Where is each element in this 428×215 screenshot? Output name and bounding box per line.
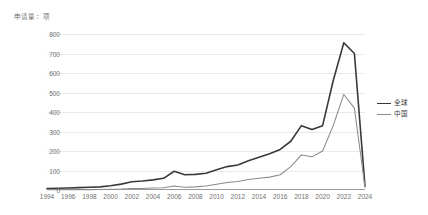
y-tick-label: 300 bbox=[20, 128, 60, 135]
y-tick-label: 700 bbox=[20, 50, 60, 57]
y-tick-label: 600 bbox=[20, 70, 60, 77]
x-tick-label: 2008 bbox=[188, 193, 202, 200]
y-tick-label: 800 bbox=[20, 31, 60, 38]
legend: 全球中国 bbox=[377, 98, 408, 120]
x-tick-label: 2010 bbox=[209, 193, 223, 200]
legend-label: 中国 bbox=[394, 111, 408, 118]
x-tick-label: 2018 bbox=[294, 193, 308, 200]
x-tick-label: 2014 bbox=[252, 193, 266, 200]
legend-swatch-icon bbox=[377, 103, 391, 104]
x-tick-label: 2024 bbox=[358, 193, 372, 200]
legend-label: 全球 bbox=[394, 100, 408, 107]
x-tick-label: 2004 bbox=[146, 193, 160, 200]
y-tick-label: 400 bbox=[20, 109, 60, 116]
x-tick-label: 1996 bbox=[61, 193, 75, 200]
x-tick-label: 1998 bbox=[82, 193, 96, 200]
x-tick-label: 2006 bbox=[167, 193, 181, 200]
line-chart: 申请量：项 0100200300400500600700800 19941996… bbox=[0, 0, 428, 215]
y-tick-label: 100 bbox=[20, 167, 60, 174]
series-line bbox=[47, 94, 365, 189]
legend-item[interactable]: 中国 bbox=[377, 109, 408, 120]
x-tick-label: 2012 bbox=[231, 193, 245, 200]
x-tick-label: 2020 bbox=[315, 193, 329, 200]
plot-area bbox=[47, 34, 365, 190]
x-tick-label: 2022 bbox=[337, 193, 351, 200]
x-tick-label: 1994 bbox=[40, 193, 54, 200]
legend-item[interactable]: 全球 bbox=[377, 98, 408, 109]
series-line bbox=[47, 43, 365, 189]
legend-swatch-icon bbox=[377, 114, 391, 115]
y-tick-label: 500 bbox=[20, 89, 60, 96]
y-tick-label: 200 bbox=[20, 148, 60, 155]
x-tick-label: 2016 bbox=[273, 193, 287, 200]
series-lines bbox=[47, 34, 365, 190]
x-tick-label: 2002 bbox=[125, 193, 139, 200]
x-tick-label: 2000 bbox=[103, 193, 117, 200]
y-axis-title: 申请量：项 bbox=[14, 11, 50, 21]
